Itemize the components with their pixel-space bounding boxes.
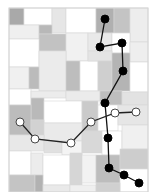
white-path-node xyxy=(111,109,119,117)
mosaic-diagram xyxy=(0,0,158,192)
white-path-node xyxy=(31,135,39,143)
tile xyxy=(80,61,98,91)
tile xyxy=(35,175,43,192)
tile xyxy=(66,8,96,33)
tile xyxy=(120,149,148,169)
white-path-node xyxy=(87,118,95,126)
tile-grid xyxy=(9,8,148,192)
tile xyxy=(9,151,31,175)
tile xyxy=(31,98,44,120)
tile xyxy=(24,8,52,25)
tile xyxy=(122,92,148,105)
black-path-node xyxy=(101,99,109,107)
tile xyxy=(130,8,148,42)
tile xyxy=(31,91,66,98)
tile xyxy=(130,42,148,62)
tile xyxy=(82,131,102,153)
tile xyxy=(9,39,39,67)
tile xyxy=(52,8,66,33)
tile xyxy=(9,89,31,105)
tile xyxy=(96,183,120,192)
tile xyxy=(9,8,24,25)
tile xyxy=(29,67,39,89)
tile xyxy=(82,155,96,183)
tile xyxy=(122,125,148,149)
tile xyxy=(70,185,96,192)
tile xyxy=(43,155,70,185)
tile xyxy=(39,34,66,51)
tile xyxy=(114,8,130,33)
white-path-node xyxy=(16,118,24,126)
black-path-node xyxy=(101,15,109,23)
black-path-node xyxy=(135,179,143,187)
tile xyxy=(31,120,44,135)
tile xyxy=(88,51,112,61)
tile xyxy=(66,91,100,101)
black-path-node xyxy=(104,134,112,142)
black-path-node xyxy=(119,67,127,75)
black-path-node xyxy=(120,171,128,179)
tile xyxy=(9,25,39,39)
tile xyxy=(39,25,52,34)
black-path-node xyxy=(105,164,113,172)
tile xyxy=(66,33,88,61)
white-path-node xyxy=(132,108,140,116)
tile xyxy=(39,51,66,91)
tile xyxy=(44,141,62,153)
tile xyxy=(66,61,80,91)
tile xyxy=(31,153,43,175)
diagram-canvas xyxy=(0,0,158,192)
tile xyxy=(130,62,148,92)
tile xyxy=(70,153,82,185)
tile xyxy=(9,175,35,192)
tile xyxy=(44,101,82,123)
black-path-node xyxy=(96,43,104,51)
white-path-node xyxy=(67,139,75,147)
tile xyxy=(102,131,122,155)
tile xyxy=(98,61,112,91)
tile xyxy=(9,67,29,89)
tile xyxy=(82,101,98,131)
black-path-node xyxy=(118,39,126,47)
tile xyxy=(43,185,70,192)
